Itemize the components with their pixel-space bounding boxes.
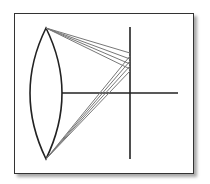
lens-shape: [30, 28, 62, 159]
light-ray: [46, 28, 130, 59]
light-ray: [46, 28, 130, 53]
lens-diagram: [0, 0, 210, 184]
light-ray: [46, 66, 130, 159]
light-ray: [46, 61, 130, 159]
light-ray: [46, 28, 130, 64]
light-ray: [46, 71, 130, 159]
